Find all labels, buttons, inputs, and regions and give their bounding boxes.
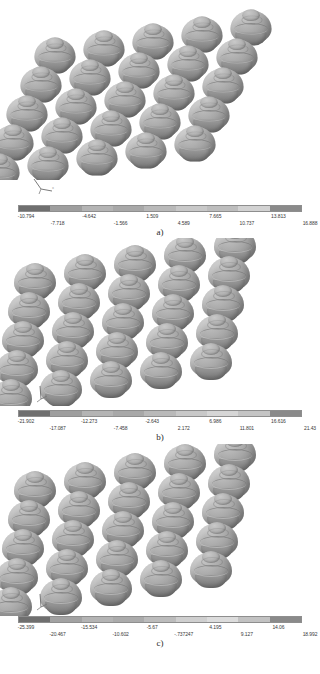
colorbar-tick-label: -.737247 [174, 631, 193, 637]
colorbar-segment [270, 617, 301, 622]
dome-cap-outline [66, 94, 88, 104]
dome-cap-outline [75, 260, 97, 270]
dome-cap-outline [178, 51, 200, 61]
dome-cap-outline [157, 329, 179, 339]
dome-cap-outline [75, 468, 97, 478]
colorbar-tick-label: 11.801 [240, 425, 254, 431]
colorbar-tick-label: -10.794 [18, 213, 34, 219]
render-view-a [0, 0, 320, 180]
dome-cap-outline [151, 566, 173, 576]
dome-cap-outline [241, 15, 263, 25]
panel-label-b: b) [0, 432, 320, 442]
colorbar-tick-label: 10.737 [240, 220, 255, 226]
dome-cap-outline [192, 22, 214, 32]
colorbar-tick-label: 13.813 [271, 213, 286, 219]
dome-cap-outline [13, 535, 35, 545]
axis-triad-icon: x [30, 176, 56, 196]
colorbar-segment [238, 617, 269, 622]
dome-cap-outline [113, 309, 135, 319]
dome-cap-outline [45, 43, 67, 53]
colorbar-segment [113, 617, 144, 622]
colorbar-segment [207, 617, 238, 622]
dome-element [0, 376, 32, 406]
dome-element [125, 129, 166, 168]
colorbar-segment [176, 617, 207, 622]
dome-cap-outline [199, 102, 221, 112]
colorbar-segment [113, 206, 144, 211]
dome-cap-outline [175, 450, 197, 460]
dome-cap-outline [19, 298, 41, 308]
dome-element [0, 150, 20, 180]
colorbar-segment [144, 206, 175, 211]
dome-cap-outline [151, 358, 173, 368]
dome-cap-outline [87, 145, 109, 155]
dome-cap-outline [57, 347, 79, 357]
colorbar-tick-label: -10.602 [113, 631, 129, 637]
dome-cap-outline [19, 506, 41, 516]
dome-cap-outline [25, 269, 47, 279]
dome-cap-outline [163, 508, 185, 518]
colorbar-tick-label: 9.127 [241, 631, 253, 637]
dome-cap-outline [101, 367, 123, 377]
colorbar-segment [19, 411, 50, 416]
dome-cap-outline [38, 152, 60, 162]
dome-cap-outline [52, 123, 74, 133]
colorbar-segment [19, 617, 50, 622]
dome-cap-outline [13, 327, 35, 337]
colorbar-segment [50, 411, 81, 416]
colorbar-tick-label: -17.087 [49, 425, 65, 431]
dome-cap-outline [143, 29, 165, 39]
dome-element [190, 340, 232, 380]
dome-cap-outline [7, 356, 29, 366]
colorbar-tick-label: 16.888 [303, 220, 318, 226]
dome-cap-outline [163, 300, 185, 310]
colorbar-tick-label: -7.718 [51, 220, 65, 226]
dome-cap-outline [201, 349, 223, 359]
colorbar-segment [113, 411, 144, 416]
colorbar-gradient-b [18, 410, 302, 417]
colorbar-segment [82, 206, 113, 211]
dome-cap-outline [129, 58, 151, 68]
dome-cap-outline [150, 109, 172, 119]
dome-cap-outline [119, 280, 141, 290]
dome-cap-outline [57, 555, 79, 565]
dome-cap-outline [101, 575, 123, 585]
colorbar-segment [238, 206, 269, 211]
dome-element [76, 136, 117, 175]
svg-text:x: x [52, 185, 54, 190]
dome-cap-outline [113, 517, 135, 527]
dome-cap-outline [63, 526, 85, 536]
dome-element [0, 584, 32, 616]
dome-cap-outline [107, 546, 129, 556]
colorbar-tick-label: 21.43 [304, 425, 316, 431]
dome-cap-outline [3, 130, 25, 140]
colorbar-tick-label: -20.467 [49, 631, 65, 637]
colorbar-tick-label: -5.67 [147, 624, 158, 630]
colorbar-tick-label: 16.616 [271, 418, 286, 424]
colorbar-tick-label: -7.458 [114, 425, 128, 431]
render-view-c [0, 444, 320, 616]
colorbar-tick-label: 6.986 [209, 418, 221, 424]
colorbar-segment [176, 411, 207, 416]
panel-c: -25.399-20.467-15.534-10.602-5.67-.73724… [0, 444, 320, 674]
panel-a: x -10.794-7.718-4.642-1.5661.5094.5897.6… [0, 0, 320, 242]
dome-cap-outline [1, 385, 23, 395]
dome-cap-outline [115, 87, 137, 97]
dome-element [140, 349, 182, 389]
dome-cap-outline [80, 65, 102, 75]
dome-cap-outline [169, 479, 191, 489]
dome-cap-outline [107, 338, 129, 348]
dome-cap-outline [25, 477, 47, 487]
colorbar-segment [50, 617, 81, 622]
colorbar-segment [270, 411, 301, 416]
dome-element [190, 548, 232, 588]
colorbar-segment [82, 411, 113, 416]
colorbar-tick-label: 4.195 [209, 624, 221, 630]
colorbar-tick-label: 4.589 [178, 220, 190, 226]
dome-cap-outline [69, 289, 91, 299]
dome-cap-outline [101, 116, 123, 126]
render-view-b [0, 238, 320, 406]
dome-element [90, 358, 132, 398]
colorbar-gradient-c [18, 616, 302, 623]
dome-cap-outline [125, 459, 147, 469]
